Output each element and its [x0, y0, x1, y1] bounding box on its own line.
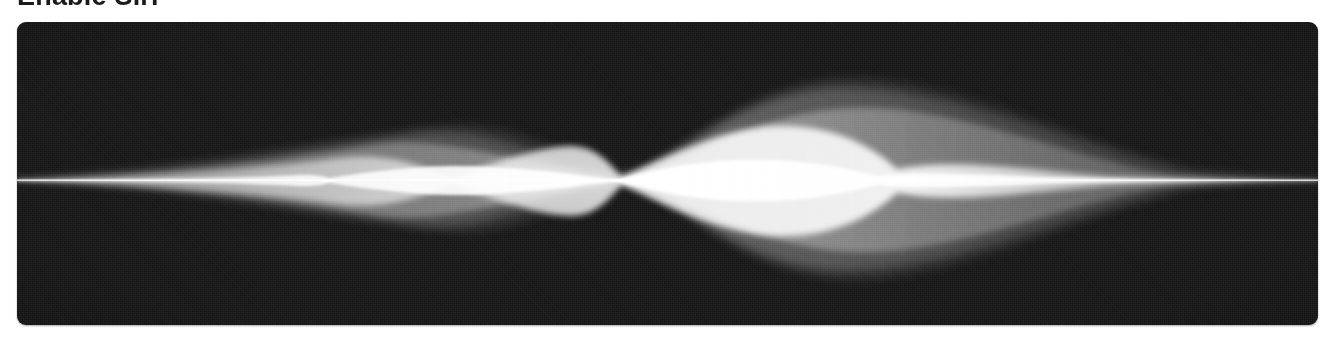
page-title: Enable Siri [17, 0, 159, 14]
siri-waveform-canvas [17, 22, 1318, 325]
waveform-baseline [17, 179, 1318, 181]
siri-waveform-panel[interactable] [17, 22, 1318, 325]
page-root: Enable Siri [0, 0, 1335, 343]
page-title-clip: Enable Siri [17, 0, 159, 14]
